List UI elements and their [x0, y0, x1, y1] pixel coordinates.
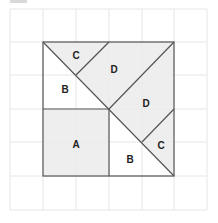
label-c-right: C [157, 140, 164, 151]
label-b-left: B [61, 84, 68, 95]
tangram-diagram: C D B D A C B [0, 0, 218, 223]
label-c-top: C [72, 50, 79, 61]
label-d-right: D [142, 98, 149, 109]
label-d-top: D [110, 64, 117, 75]
label-b-bottom: B [126, 154, 133, 165]
label-a: A [72, 139, 79, 150]
